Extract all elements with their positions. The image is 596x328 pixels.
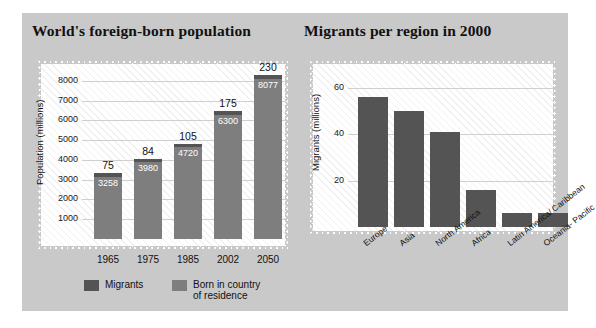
stacked-bar: 325875 (94, 173, 122, 239)
stacked-bar: 4720105 (174, 144, 202, 239)
right-chart-y-axis-label: Migrants (millions) (310, 94, 321, 171)
right-chart-title: Migrants per region in 2000 (304, 22, 491, 40)
bar-top-label: 75 (86, 159, 130, 171)
y-axis-tick-label: 2000 (38, 193, 78, 203)
legend-label: Migrants (105, 279, 143, 290)
bar-value-label: 4720 (174, 148, 202, 158)
bar-top-label: 175 (206, 97, 250, 109)
y-axis-tick-label: 20 (310, 175, 344, 185)
stacked-bar: 8077230 (254, 75, 282, 239)
legend-item: Migrants (84, 279, 143, 291)
bar-segment-born-in-country (134, 162, 162, 239)
bar-value-label: 3258 (94, 178, 122, 188)
x-axis-tick-label: 1975 (127, 254, 169, 265)
legend-swatch (172, 280, 187, 291)
y-axis-tick-label: 60 (310, 82, 344, 92)
bar-segment-migrants (174, 144, 202, 148)
y-axis-tick-label: 8000 (38, 75, 78, 85)
bar-value-label: 3980 (134, 163, 162, 173)
bar-segment-migrants (134, 159, 162, 163)
bar (394, 111, 424, 227)
bar-segment-migrants (254, 75, 282, 80)
bar-top-label: 84 (126, 145, 170, 157)
x-axis-tick-label: 2002 (207, 254, 249, 265)
y-axis-tick-label: 1000 (38, 213, 78, 223)
right-chart-plot-area: 204060 (310, 61, 556, 234)
bar-segment-born-in-country (254, 79, 282, 239)
bar-value-label: 8077 (254, 80, 282, 90)
bar (430, 132, 460, 227)
left-chart-plot-area: 10002000300040005000600070008000 3258753… (38, 61, 288, 249)
bar-segment-born-in-country (214, 115, 242, 239)
left-chart-title: World's foreign-born population (32, 22, 251, 40)
x-axis-tick-label: 2050 (247, 254, 289, 265)
legend-label: Born in country of residence (193, 279, 260, 301)
bar-segment-born-in-country (174, 147, 202, 239)
legend-swatch (84, 280, 99, 291)
bar-top-label: 105 (166, 130, 210, 142)
bar-segment-migrants (94, 173, 122, 177)
figure-card: World's foreign-born population 10002000… (22, 13, 568, 311)
bar-segment-migrants (214, 111, 242, 115)
bar-value-label: 6300 (214, 116, 242, 126)
x-axis-tick-label: 1965 (87, 254, 129, 265)
left-chart-y-axis-label: Population (millions) (34, 99, 45, 185)
legend-item: Born in country of residence (172, 279, 260, 301)
x-axis-tick-label: 1985 (167, 254, 209, 265)
stacked-bar: 398084 (134, 159, 162, 239)
bar-top-label: 230 (246, 61, 290, 73)
bar (358, 97, 388, 227)
stacked-bar: 6300175 (214, 111, 242, 239)
gridline (348, 88, 554, 89)
